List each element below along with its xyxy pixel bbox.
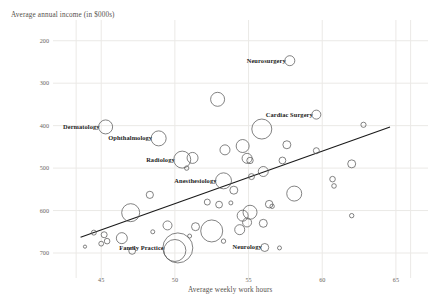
data-point bbox=[216, 201, 223, 208]
data-point bbox=[312, 110, 321, 119]
data-point bbox=[211, 92, 225, 106]
data-point bbox=[201, 220, 223, 242]
data-point bbox=[174, 151, 191, 168]
data-point bbox=[243, 205, 257, 219]
data-point bbox=[221, 239, 225, 243]
x-tick-label: 65 bbox=[386, 276, 406, 283]
y-tick-label: 200 bbox=[27, 37, 49, 44]
data-point bbox=[287, 186, 302, 201]
x-tick-label: 45 bbox=[91, 276, 111, 283]
data-point bbox=[277, 246, 281, 250]
y-tick-label: 400 bbox=[27, 122, 49, 129]
data-point bbox=[151, 230, 155, 234]
data-point bbox=[220, 145, 230, 155]
x-tick-label: 60 bbox=[312, 276, 332, 283]
point-label-radiology: Radiology bbox=[146, 156, 175, 163]
data-point bbox=[330, 176, 336, 182]
data-point bbox=[235, 225, 245, 235]
point-label-anesthesiology: Anesthesiology bbox=[174, 177, 216, 184]
data-point bbox=[252, 119, 272, 139]
point-label-neurosurgery: Neurosurgery bbox=[247, 57, 286, 64]
data-point bbox=[361, 122, 366, 127]
x-tick-label: 55 bbox=[239, 276, 259, 283]
x-tick-label: 50 bbox=[165, 276, 185, 283]
data-point bbox=[259, 219, 267, 227]
data-point bbox=[348, 160, 356, 168]
bubble-chart: Average annual income (in $000s) Average… bbox=[0, 0, 428, 301]
data-point bbox=[283, 141, 291, 149]
data-point bbox=[116, 233, 127, 244]
data-point bbox=[229, 201, 233, 205]
plot-area bbox=[0, 0, 428, 301]
point-label-dermatology: Dermatology bbox=[63, 123, 100, 130]
data-point bbox=[204, 199, 210, 205]
data-point bbox=[104, 238, 110, 244]
point-label-ophthalmology: Ophthalmology bbox=[108, 134, 152, 141]
y-tick-label: 500 bbox=[27, 164, 49, 171]
y-tick-label: 700 bbox=[27, 249, 49, 256]
y-tick-label: 600 bbox=[27, 207, 49, 214]
data-point bbox=[188, 234, 192, 238]
data-point bbox=[279, 157, 286, 164]
point-label-family-practice: Family Practice bbox=[119, 244, 164, 251]
data-point bbox=[332, 184, 337, 189]
y-tick-label: 300 bbox=[27, 79, 49, 86]
point-label-neurology: Neurology bbox=[233, 243, 262, 250]
point-label-cardiac-surgery: Cardiac Surgery bbox=[266, 111, 313, 118]
data-point bbox=[230, 186, 238, 194]
data-point bbox=[236, 140, 249, 153]
data-point bbox=[151, 131, 166, 146]
data-point bbox=[101, 232, 107, 238]
data-point bbox=[163, 221, 172, 230]
data-point bbox=[237, 210, 248, 221]
data-point bbox=[349, 213, 353, 217]
data-point bbox=[146, 191, 153, 198]
data-point bbox=[83, 245, 86, 248]
data-point bbox=[192, 223, 200, 231]
data-point bbox=[187, 152, 198, 163]
data-point bbox=[285, 56, 295, 66]
